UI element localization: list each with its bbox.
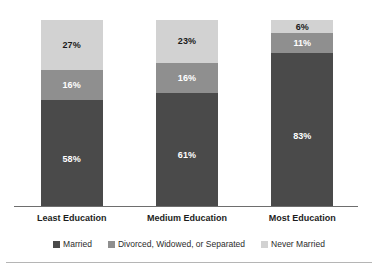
chart-legend: Married Divorced, Widowed, or Separated … — [0, 236, 378, 252]
bar-segment-label: 23% — [178, 36, 196, 46]
legend-swatch-icon — [53, 241, 60, 248]
bar-segment-married[interactable]: 58% — [41, 100, 103, 206]
bar-segment-never-married[interactable]: 6% — [271, 20, 333, 33]
bars-row: 27% 16% 58% 23% 16% — [14, 14, 360, 206]
plot-area: 27% 16% 58% 23% 16% — [14, 14, 360, 206]
bar-segment-never-married[interactable]: 27% — [41, 20, 103, 70]
legend-swatch-icon — [108, 241, 115, 248]
x-axis-category-labels: Least Education Medium Education Most Ed… — [14, 209, 360, 227]
legend-item-never-married[interactable]: Never Married — [261, 239, 325, 249]
legend-swatch-icon — [261, 241, 268, 248]
legend-item-divorced[interactable]: Divorced, Widowed, or Separated — [108, 239, 245, 249]
bar-segment-married[interactable]: 83% — [271, 53, 333, 206]
bar-stack: 23% 16% 61% — [156, 20, 218, 206]
bar-segment-label: 6% — [296, 22, 309, 32]
legend-item-label: Divorced, Widowed, or Separated — [118, 239, 245, 249]
bar-segment-label: 27% — [62, 40, 80, 50]
bar-segment-divorced[interactable]: 16% — [41, 70, 103, 100]
bar-stack: 27% 16% 58% — [41, 20, 103, 206]
bar-segment-label: 58% — [62, 154, 80, 164]
bar-segment-divorced[interactable]: 11% — [271, 33, 333, 53]
bar-segment-label: 16% — [178, 73, 196, 83]
bar-segment-divorced[interactable]: 16% — [156, 63, 218, 93]
bar-group-medium-education[interactable]: 23% 16% 61% — [156, 14, 218, 206]
x-axis-line — [14, 206, 358, 207]
legend-item-label: Married — [63, 239, 92, 249]
bottom-divider — [6, 262, 372, 263]
bar-segment-married[interactable]: 61% — [156, 93, 218, 206]
bar-group-most-education[interactable]: 6% 11% 83% — [271, 14, 333, 206]
legend-item-married[interactable]: Married — [53, 239, 92, 249]
bar-group-least-education[interactable]: 27% 16% 58% — [41, 14, 103, 206]
bar-segment-never-married[interactable]: 23% — [156, 20, 218, 63]
x-axis-label-least-education: Least Education — [22, 213, 122, 223]
legend-item-label: Never Married — [271, 239, 325, 249]
x-axis-label-medium-education: Medium Education — [137, 213, 237, 223]
bar-segment-label: 11% — [293, 38, 311, 48]
x-axis-label-most-education: Most Education — [252, 213, 352, 223]
bar-segment-label: 61% — [178, 150, 196, 160]
stacked-bar-chart: 27% 16% 58% 23% 16% — [0, 0, 378, 272]
bar-segment-label: 16% — [62, 80, 80, 90]
bar-segment-label: 83% — [293, 131, 311, 141]
bar-stack: 6% 11% 83% — [271, 20, 333, 206]
